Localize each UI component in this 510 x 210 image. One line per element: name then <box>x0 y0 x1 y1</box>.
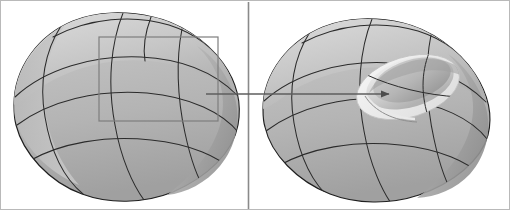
panel-left <box>14 13 239 201</box>
panel-right <box>263 19 490 206</box>
rounded-box-solid <box>14 13 239 201</box>
rounded-box-solid-pocketed <box>263 19 490 206</box>
cad-illustration <box>1 1 510 210</box>
cad-figure: Rounded box solid — selected top face re… <box>0 0 510 210</box>
